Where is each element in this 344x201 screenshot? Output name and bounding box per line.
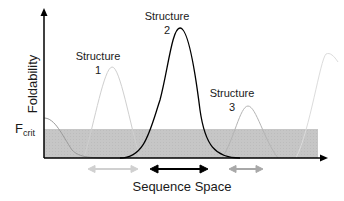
structure-2-range-arrow [150, 165, 208, 173]
structure-3-range-arrow [229, 166, 263, 173]
y-axis-arrowhead [41, 8, 48, 16]
structure-3-label-line2: 3 [229, 101, 235, 113]
y-axis-label: Foldability [25, 54, 40, 113]
structure-3-label-line1: Structure [210, 87, 255, 99]
structure-1-range-arrow [88, 166, 138, 173]
structure-1-label-line2: 1 [95, 64, 101, 76]
threshold-label-main: F [15, 121, 23, 136]
threshold-label: Fcrit [15, 121, 35, 138]
x-axis-arrowhead [320, 155, 328, 162]
structure-1-label-line1: Structure [76, 50, 121, 62]
structure-2-label-line1: Structure [145, 10, 190, 22]
structure-2-label-line2: 2 [164, 24, 170, 36]
foldability-diagram: Structure 1 Structure 2 Structure 3 Fold… [0, 0, 344, 201]
threshold-label-sub: crit [23, 128, 35, 138]
x-axis-label: Sequence Space [132, 179, 231, 194]
